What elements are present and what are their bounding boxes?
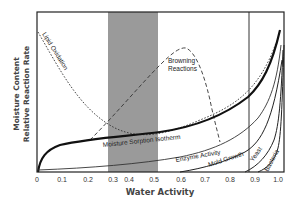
tick-label: 0.9 bbox=[250, 176, 260, 183]
lipid-oxidation-label: Lipid Oxidation bbox=[40, 31, 70, 72]
x-axis-title: Water Activity bbox=[126, 187, 195, 197]
x-axis-ticks: 0 0.1 0.2 0.3 0.4 0.5 0.6 0.7 0.8 0.9 1.… bbox=[35, 176, 283, 183]
tick-label: 0.5 bbox=[149, 176, 159, 183]
water-activity-chart: Lipid Oxidation Browning Reactions Moist… bbox=[0, 0, 294, 207]
tick-label: 0.7 bbox=[200, 176, 210, 183]
plot-frame bbox=[37, 12, 284, 172]
enzyme-activity-curve bbox=[38, 45, 281, 170]
bacteria-label: Bacteria bbox=[263, 148, 281, 173]
y-axis-title-line2: Relative Reaction Rate bbox=[22, 46, 31, 142]
tick-label: 0.4 bbox=[124, 176, 134, 183]
browning-label-line1: Browning bbox=[168, 57, 195, 65]
tick-label: 0.3 bbox=[108, 176, 118, 183]
tick-label: 0.8 bbox=[225, 176, 235, 183]
tick-label: 0 bbox=[35, 176, 39, 183]
moisture-sorption-isotherm-curve bbox=[38, 30, 280, 172]
tick-label: 0.1 bbox=[57, 176, 67, 183]
y-axis-title-line1: Moisture Content bbox=[12, 57, 21, 131]
shaded-region bbox=[108, 12, 158, 172]
browning-label-line2: Reactions bbox=[168, 65, 198, 72]
tick-label: 0.2 bbox=[83, 176, 93, 183]
tick-label: 0.6 bbox=[176, 176, 186, 183]
tick-label: 1.0 bbox=[273, 176, 283, 183]
